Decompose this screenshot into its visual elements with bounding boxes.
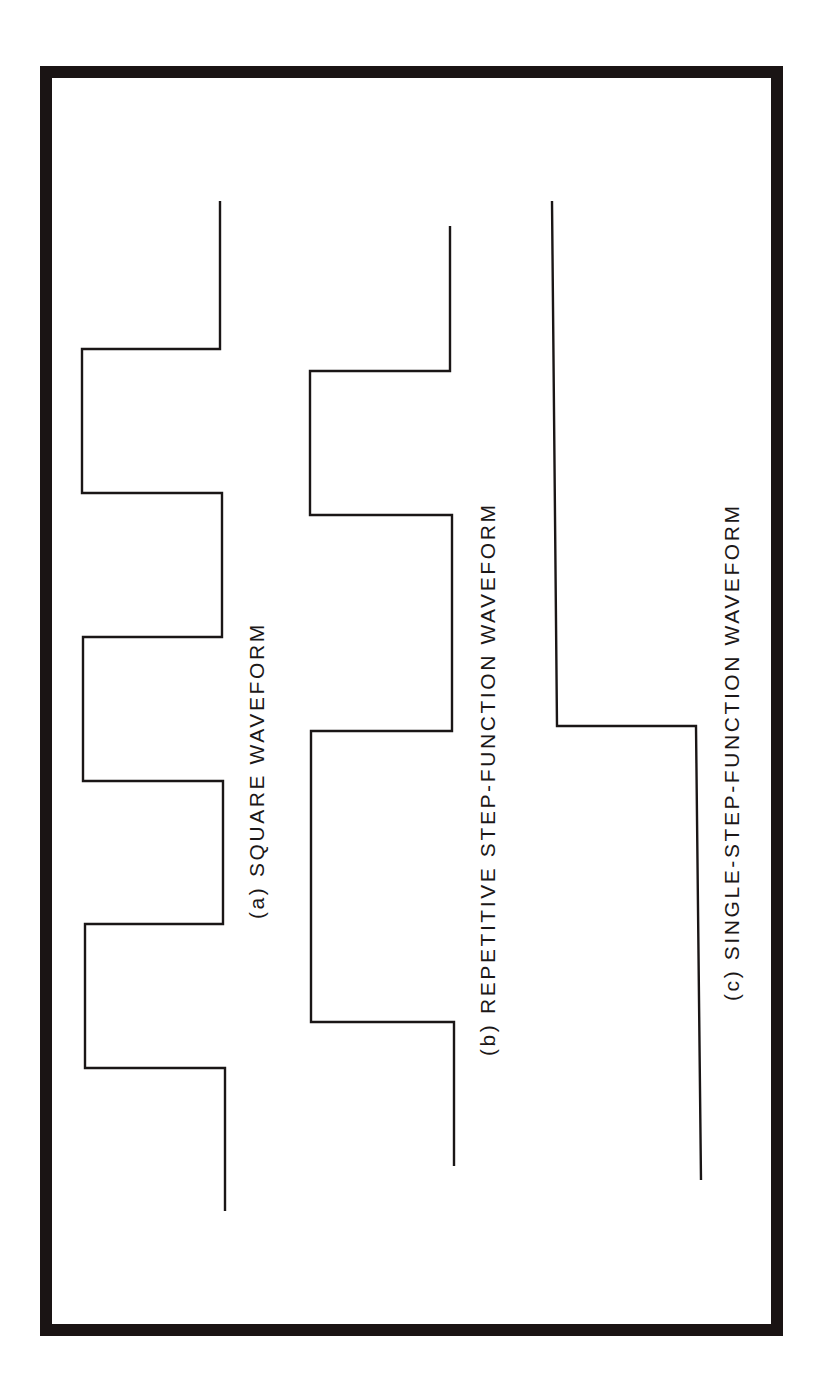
single-step-waveform-trace (552, 201, 701, 1180)
single-step-waveform-label: (c) SINGLE-STEP-FUNCTION WAVEFORM (721, 503, 742, 1001)
square-waveform-label: (a) SQUARE WAVEFORM (246, 622, 267, 919)
waveform-drawing (0, 0, 823, 1388)
cut-off-caption (0, 1376, 823, 1388)
square-waveform-trace (82, 201, 225, 1211)
repetitive-step-waveform-label: (b) REPETITIVE STEP-FUNCTION WAVEFORM (477, 502, 498, 1056)
figure: (a) SQUARE WAVEFORM (b) REPETITIVE STEP-… (0, 0, 823, 1388)
repetitive-step-waveform-trace (310, 226, 454, 1166)
